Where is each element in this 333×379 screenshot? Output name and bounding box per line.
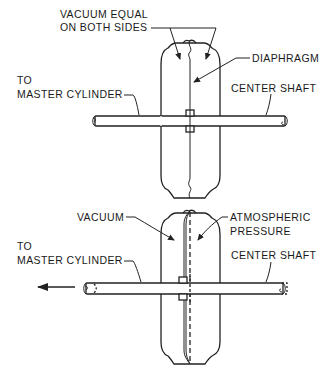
label-diaphragm: DIAPHRAGM	[252, 52, 319, 64]
label-atmospheric: ATMOSPHERIC	[230, 211, 311, 223]
top-view: VACUUM EQUAL ON BOTH SIDES DIAPHRAGM TO …	[17, 8, 319, 198]
label-master-cylinder-top: MASTER CYLINDER	[17, 88, 123, 100]
leader-master-cylinder-top	[124, 95, 139, 115]
label-vacuum: VACUUM	[77, 211, 124, 223]
label-to-top: TO	[17, 74, 32, 86]
bottom-center-shaft	[86, 283, 283, 294]
bottom-view: VACUUM ATMOSPHERIC PRESSURE TO MASTER CY…	[17, 210, 316, 364]
leader-diaphragm	[194, 58, 250, 82]
leader-atmospheric-pressure	[198, 217, 228, 240]
leader-center-shaft-bottom	[266, 262, 271, 282]
label-center-shaft-bottom: CENTER SHAFT	[231, 249, 316, 261]
leader-vacuum	[126, 217, 174, 240]
bottom-hub-lower	[179, 294, 187, 300]
leader-center-shaft-top	[266, 94, 271, 115]
bottom-hub-upper	[179, 277, 187, 283]
leader-master-cylinder-bottom	[124, 261, 141, 282]
label-vacuum-equal-2: ON BOTH SIDES	[60, 21, 147, 33]
label-pressure: PRESSURE	[230, 225, 291, 237]
label-center-shaft-top: CENTER SHAFT	[231, 82, 316, 94]
label-to-bottom: TO	[17, 240, 32, 252]
label-master-cylinder-bottom: MASTER CYLINDER	[17, 254, 123, 266]
label-vacuum-equal-1: VACUUM EQUAL	[60, 8, 148, 20]
brake-booster-diagram: VACUUM EQUAL ON BOTH SIDES DIAPHRAGM TO …	[0, 0, 333, 379]
